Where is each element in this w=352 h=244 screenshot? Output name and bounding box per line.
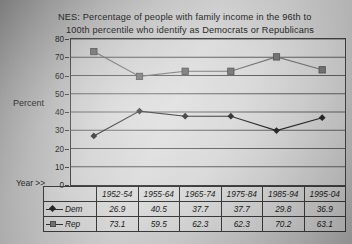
- table-year-header: 1995-04: [304, 187, 346, 202]
- table-year-header: 1952-54: [97, 187, 139, 202]
- table-year-header: 1985-94: [263, 187, 305, 202]
- series-line-rep: [94, 52, 322, 77]
- plot-container: 80706050403020100: [43, 38, 346, 186]
- table-value-cell: 37.7: [180, 202, 222, 217]
- y-tick-mark: [65, 112, 69, 113]
- chart-title-line-1: NES: Percentage of people with family in…: [58, 11, 346, 24]
- y-tick-mark: [65, 39, 69, 40]
- y-tick-label: 20: [55, 144, 64, 153]
- square-point: [228, 68, 234, 74]
- plot-svg: [71, 39, 345, 185]
- table-row: Rep73.159.562.362.370.263.1: [44, 217, 346, 232]
- diamond-point: [90, 133, 97, 140]
- square-point: [182, 68, 188, 74]
- square-point: [319, 67, 325, 73]
- chart-screenshot: NES: Percentage of people with family in…: [0, 0, 352, 244]
- table-year-header: 1965-74: [180, 187, 222, 202]
- table-row: Dem26.940.537.737.729.836.9: [44, 202, 346, 217]
- plot-area: [70, 38, 346, 186]
- y-tick-label: 80: [55, 35, 64, 44]
- y-tick-label: 50: [55, 89, 64, 98]
- table-value-cell: 29.8: [263, 202, 305, 217]
- diamond-point: [182, 113, 189, 120]
- y-tick-mark: [65, 130, 69, 131]
- y-tick-mark: [65, 149, 69, 150]
- table-value-cell: 40.5: [138, 202, 180, 217]
- square-marker: [46, 220, 63, 229]
- legend-label: Dem: [65, 204, 83, 214]
- table-value-cell: 70.2: [263, 217, 305, 232]
- y-tick-label: 60: [55, 71, 64, 80]
- legend-label: Rep: [65, 219, 80, 229]
- table-value-cell: 63.1: [304, 217, 346, 232]
- y-tick-label: 10: [55, 162, 64, 171]
- chart-title-line-2: 100th percentile who identify as Democra…: [58, 24, 346, 37]
- square-point: [273, 54, 279, 60]
- table-corner-cell: [44, 187, 97, 202]
- table-value-cell: 36.9: [304, 202, 346, 217]
- chart-title: NES: Percentage of people with family in…: [58, 11, 346, 36]
- y-tick-mark: [65, 167, 69, 168]
- legend-cell-rep: Rep: [44, 217, 97, 232]
- diamond-marker: [46, 205, 63, 214]
- y-tick-label: 40: [55, 108, 64, 117]
- table-header-row: 1952-541955-641965-741975-841985-941995-…: [44, 187, 346, 202]
- data-table: 1952-541955-641965-741975-841985-941995-…: [43, 186, 346, 232]
- y-tick-mark: [65, 57, 69, 58]
- table-value-cell: 73.1: [97, 217, 139, 232]
- y-tick-mark: [65, 76, 69, 77]
- table-year-header: 1975-84: [221, 187, 263, 202]
- series-line-dem: [94, 111, 322, 136]
- diamond-point: [136, 108, 143, 115]
- table-year-header: 1955-64: [138, 187, 180, 202]
- y-axis-ticks: 80706050403020100: [43, 38, 67, 186]
- y-axis-label: Percent: [13, 98, 44, 108]
- square-point: [136, 73, 142, 79]
- table-value-cell: 26.9: [97, 202, 139, 217]
- x-axis-label: Year >>: [16, 178, 45, 188]
- diamond-point: [273, 127, 280, 134]
- y-tick-mark: [65, 94, 69, 95]
- y-tick-label: 30: [55, 126, 64, 135]
- legend-cell-dem: Dem: [44, 202, 97, 217]
- table-value-cell: 59.5: [138, 217, 180, 232]
- diamond-point: [319, 114, 326, 121]
- table-value-cell: 37.7: [221, 202, 263, 217]
- diamond-point: [227, 113, 234, 120]
- table-value-cell: 62.3: [180, 217, 222, 232]
- square-point: [91, 48, 97, 54]
- table-body: Dem26.940.537.737.729.836.9Rep73.159.562…: [44, 202, 346, 232]
- table-value-cell: 62.3: [221, 217, 263, 232]
- y-tick-label: 70: [55, 53, 64, 62]
